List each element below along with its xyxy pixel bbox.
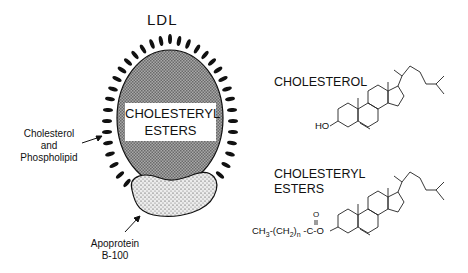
formula-part: CH bbox=[252, 225, 266, 236]
surface-label-line3: Phospholipid bbox=[16, 152, 82, 164]
core-label: CHOLESTERYL ESTERS bbox=[125, 103, 216, 141]
surface-label: Cholesterol and Phospholipid bbox=[16, 128, 82, 164]
ester-formula: CH3-(CH2)n -C-O bbox=[252, 225, 324, 238]
cholesterol-title: CHOLESTEROL bbox=[274, 75, 367, 90]
protein-label-line2: B-100 bbox=[80, 250, 150, 262]
carbonyl-oxygen: O bbox=[313, 210, 319, 219]
formula-part: -(CH bbox=[270, 225, 290, 236]
protein-label: Apoprotein B-100 bbox=[80, 238, 150, 262]
ester-title-line2: ESTERS bbox=[274, 182, 365, 197]
diagram-title: LDL bbox=[147, 11, 178, 28]
core-label-line1: CHOLESTERYL bbox=[125, 105, 216, 122]
cholesteryl-esters-title: CHOLESTERYL ESTERS bbox=[274, 167, 365, 197]
formula-part: -C-O bbox=[301, 225, 324, 236]
surface-label-line1: Cholesterol bbox=[16, 128, 82, 140]
protein-label-line1: Apoprotein bbox=[80, 238, 150, 250]
core-label-line2: ESTERS bbox=[125, 122, 216, 139]
hydroxyl-label: HO bbox=[315, 120, 329, 131]
surface-label-line2: and bbox=[16, 140, 82, 152]
ester-title-line1: CHOLESTERYL bbox=[274, 167, 365, 182]
